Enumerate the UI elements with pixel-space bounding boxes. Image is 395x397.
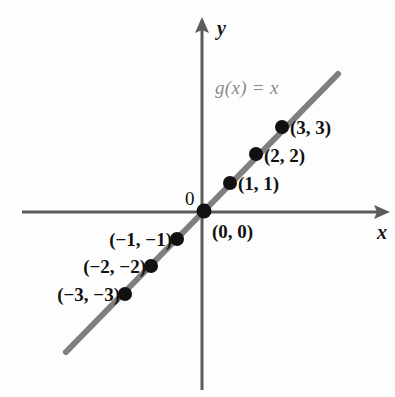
point-label-minus2-minus2: (−2, −2): [0, 257, 146, 276]
data-point-minus3-minus3: [118, 287, 132, 301]
data-point-2-2: [249, 147, 263, 161]
data-point-0-0: [197, 204, 212, 219]
point-label-minus1-minus1: (−1, −1): [0, 230, 172, 249]
x-axis-label: x: [377, 222, 387, 242]
graph-figure: y x g(x) = x 0 (3, 3) (2, 2) (1, 1) (0, …: [0, 0, 395, 397]
data-point-minus2-minus2: [144, 259, 158, 273]
point-label-minus3-minus3: (−3, −3): [0, 285, 120, 304]
point-label-0-0: (0, 0): [212, 222, 253, 241]
point-label-1-1: (1, 1): [238, 174, 279, 193]
data-point-3-3: [275, 120, 289, 134]
data-point-1-1: [223, 176, 237, 190]
function-equation-label: g(x) = x: [215, 78, 279, 97]
y-axis-label: y: [217, 18, 226, 38]
point-label-2-2: (2, 2): [264, 146, 305, 165]
origin-tick-label: 0: [185, 189, 195, 208]
data-point-minus1-minus1: [170, 232, 184, 246]
coordinate-plane-svg: [0, 0, 395, 397]
y-axis: [195, 17, 209, 390]
point-label-3-3: (3, 3): [290, 118, 331, 137]
